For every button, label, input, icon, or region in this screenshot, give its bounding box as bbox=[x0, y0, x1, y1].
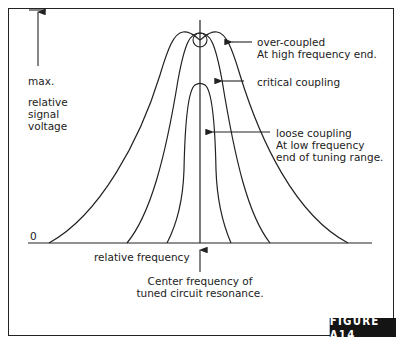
x-axis-label: relative frequency bbox=[94, 251, 190, 263]
critical-coupling-label: critical coupling bbox=[257, 76, 340, 88]
figure-badge: FIGURE A14 bbox=[330, 318, 396, 337]
loose-coupling-label-1: loose coupling bbox=[276, 127, 352, 139]
over-coupled-label-2: At high frequency end. bbox=[257, 48, 377, 60]
critical-coupling-curve bbox=[127, 33, 270, 243]
y-axis-label-line-1: relative bbox=[28, 96, 68, 108]
over-coupled-label-1: over-coupled bbox=[257, 36, 325, 48]
y-max-label: max. bbox=[28, 75, 54, 87]
center-frequency-label-1: Center frequency of bbox=[140, 275, 260, 287]
loose-coupling-label-3: end of tuning range. bbox=[276, 151, 383, 163]
center-frequency-label-2: tuned circuit resonance. bbox=[130, 287, 270, 299]
loose-coupling-label-2: At low frequency bbox=[276, 139, 364, 151]
y-axis-label-line-3: voltage bbox=[28, 120, 67, 132]
loose-coupling-curve bbox=[167, 84, 231, 244]
y-axis-label-line-2: signal bbox=[28, 108, 59, 120]
y-zero-label: 0 bbox=[30, 230, 37, 242]
